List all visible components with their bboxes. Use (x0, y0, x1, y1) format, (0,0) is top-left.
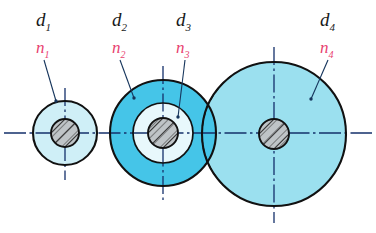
label-d2-base: d (112, 9, 122, 30)
label-n4-sub: 4 (329, 49, 334, 60)
svg-text:n3: n3 (176, 38, 190, 60)
pulley-diagram-canvas: d1 n1 d2 n2 d3 n3 (0, 0, 376, 233)
svg-text:d4: d4 (320, 9, 336, 33)
label-n2-base: n (112, 38, 121, 57)
label-d3-base: d (176, 9, 186, 30)
label-d3-sub: 3 (185, 21, 192, 33)
label-n1-sub: 1 (45, 49, 50, 60)
label-n3-sub: 3 (184, 49, 190, 60)
svg-text:d3: d3 (176, 9, 192, 33)
label-d1-base: d (36, 9, 46, 30)
label-n4-base: n (320, 38, 329, 57)
svg-text:n1: n1 (36, 38, 50, 60)
label-n4: n4 (320, 38, 334, 60)
label-d1: d1 (36, 9, 51, 33)
svg-text:n2: n2 (112, 38, 126, 60)
svg-text:d2: d2 (112, 9, 128, 33)
technical-diagram: d1 n1 d2 n2 d3 n3 (0, 0, 376, 233)
hub-1 (51, 119, 79, 147)
hub-2 (148, 118, 178, 148)
label-d2: d2 (112, 9, 128, 33)
label-n1-base: n (36, 38, 45, 57)
svg-text:d1: d1 (36, 9, 51, 33)
label-n3: n3 (176, 38, 190, 60)
label-d2-sub: 2 (122, 21, 128, 33)
label-d3: d3 (176, 9, 192, 33)
label-d4-base: d (320, 9, 330, 30)
label-d1-sub: 1 (46, 21, 52, 33)
label-d4-sub: 4 (330, 21, 336, 33)
label-n2: n2 (112, 38, 126, 60)
svg-text:n4: n4 (320, 38, 334, 60)
leader-n1 (44, 60, 58, 103)
label-d4: d4 (320, 9, 336, 33)
label-n3-base: n (176, 38, 185, 57)
label-n1: n1 (36, 38, 50, 60)
hub-3 (259, 119, 289, 149)
label-n2-sub: 2 (121, 49, 126, 60)
